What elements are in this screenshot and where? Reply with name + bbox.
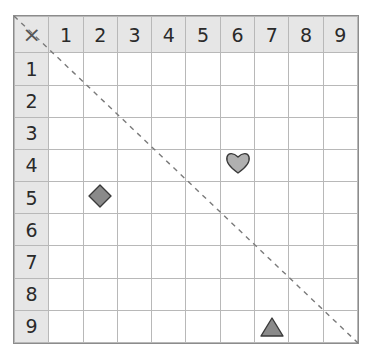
grid-row: 7 — [15, 246, 358, 278]
grid-cell — [83, 246, 117, 278]
grid-cell — [49, 310, 83, 342]
grid-table: ×123456789123456789 — [14, 16, 358, 343]
grid-cell — [49, 53, 83, 85]
column-header: 9 — [323, 17, 357, 53]
grid-cell — [152, 182, 186, 214]
grid-cell — [186, 310, 220, 342]
grid-cell — [49, 246, 83, 278]
grid-cell — [83, 117, 117, 149]
grid-cell — [117, 246, 151, 278]
grid-cell — [323, 246, 357, 278]
grid-cell — [49, 278, 83, 310]
grid-cell — [323, 85, 357, 117]
column-header: 2 — [83, 17, 117, 53]
grid-cell — [255, 117, 289, 149]
diamond-icon — [86, 183, 114, 209]
grid-cell — [255, 149, 289, 181]
grid-cell — [289, 246, 323, 278]
corner-multiply-symbol: × — [15, 17, 49, 53]
row-header: 3 — [15, 117, 49, 149]
column-header: 3 — [117, 17, 151, 53]
row-header: 9 — [15, 310, 49, 342]
grid-cell — [83, 214, 117, 246]
grid-cell — [186, 214, 220, 246]
grid-cell — [220, 53, 254, 85]
grid-cell — [83, 278, 117, 310]
grid-cell — [255, 214, 289, 246]
grid-cell — [49, 85, 83, 117]
heart-icon — [224, 150, 252, 176]
multiplication-grid: ×123456789123456789 — [14, 16, 358, 343]
grid-cell — [323, 310, 357, 342]
grid-cell — [220, 214, 254, 246]
grid-cell — [83, 149, 117, 181]
grid-cell — [83, 53, 117, 85]
row-header: 5 — [15, 182, 49, 214]
row-header: 8 — [15, 278, 49, 310]
grid-cell — [152, 214, 186, 246]
grid-row: 3 — [15, 117, 358, 149]
grid-cell — [255, 85, 289, 117]
grid-cell — [323, 214, 357, 246]
row-header: 7 — [15, 246, 49, 278]
grid-cell — [289, 53, 323, 85]
grid-cell — [323, 278, 357, 310]
grid-cell — [117, 182, 151, 214]
grid-row: 8 — [15, 278, 358, 310]
grid-cell — [289, 117, 323, 149]
grid-cell — [152, 149, 186, 181]
grid-cell — [152, 85, 186, 117]
grid-cell — [255, 182, 289, 214]
grid-cell — [289, 85, 323, 117]
grid-cell — [152, 278, 186, 310]
row-header: 6 — [15, 214, 49, 246]
grid-cell — [220, 117, 254, 149]
column-header: 7 — [255, 17, 289, 53]
grid-cell — [83, 310, 117, 342]
grid-row: 5 — [15, 182, 358, 214]
grid-cell — [186, 149, 220, 181]
grid-cell — [152, 53, 186, 85]
grid-cell — [186, 85, 220, 117]
grid-cell — [117, 214, 151, 246]
grid-cell — [49, 117, 83, 149]
grid-cell — [289, 214, 323, 246]
grid-cell — [220, 278, 254, 310]
grid-row: 6 — [15, 214, 358, 246]
grid-cell — [255, 246, 289, 278]
grid-cell — [220, 310, 254, 342]
grid-cell — [255, 278, 289, 310]
column-header: 8 — [289, 17, 323, 53]
grid-cell — [323, 182, 357, 214]
grid-cell — [49, 149, 83, 181]
column-header: 1 — [49, 17, 83, 53]
grid-cell — [186, 278, 220, 310]
grid-cell — [186, 53, 220, 85]
grid-cell — [49, 214, 83, 246]
grid-cell — [289, 149, 323, 181]
grid-cell — [117, 53, 151, 85]
header-row: ×123456789 — [15, 17, 358, 53]
column-header: 6 — [220, 17, 254, 53]
grid-cell — [186, 246, 220, 278]
grid-cell — [186, 117, 220, 149]
grid-cell — [117, 149, 151, 181]
grid-cell — [289, 278, 323, 310]
grid-cell — [152, 117, 186, 149]
grid-cell — [220, 85, 254, 117]
grid-row: 9 — [15, 310, 358, 342]
grid-row: 4 — [15, 149, 358, 181]
grid-cell — [117, 85, 151, 117]
grid-cell — [220, 182, 254, 214]
row-header: 1 — [15, 53, 49, 85]
row-header: 4 — [15, 149, 49, 181]
column-header: 4 — [152, 17, 186, 53]
grid-cell — [220, 246, 254, 278]
grid-cell — [186, 182, 220, 214]
grid-cell — [255, 53, 289, 85]
grid-cell — [323, 149, 357, 181]
grid-cell — [49, 182, 83, 214]
row-header: 2 — [15, 85, 49, 117]
grid-cell — [152, 246, 186, 278]
grid-cell — [117, 278, 151, 310]
